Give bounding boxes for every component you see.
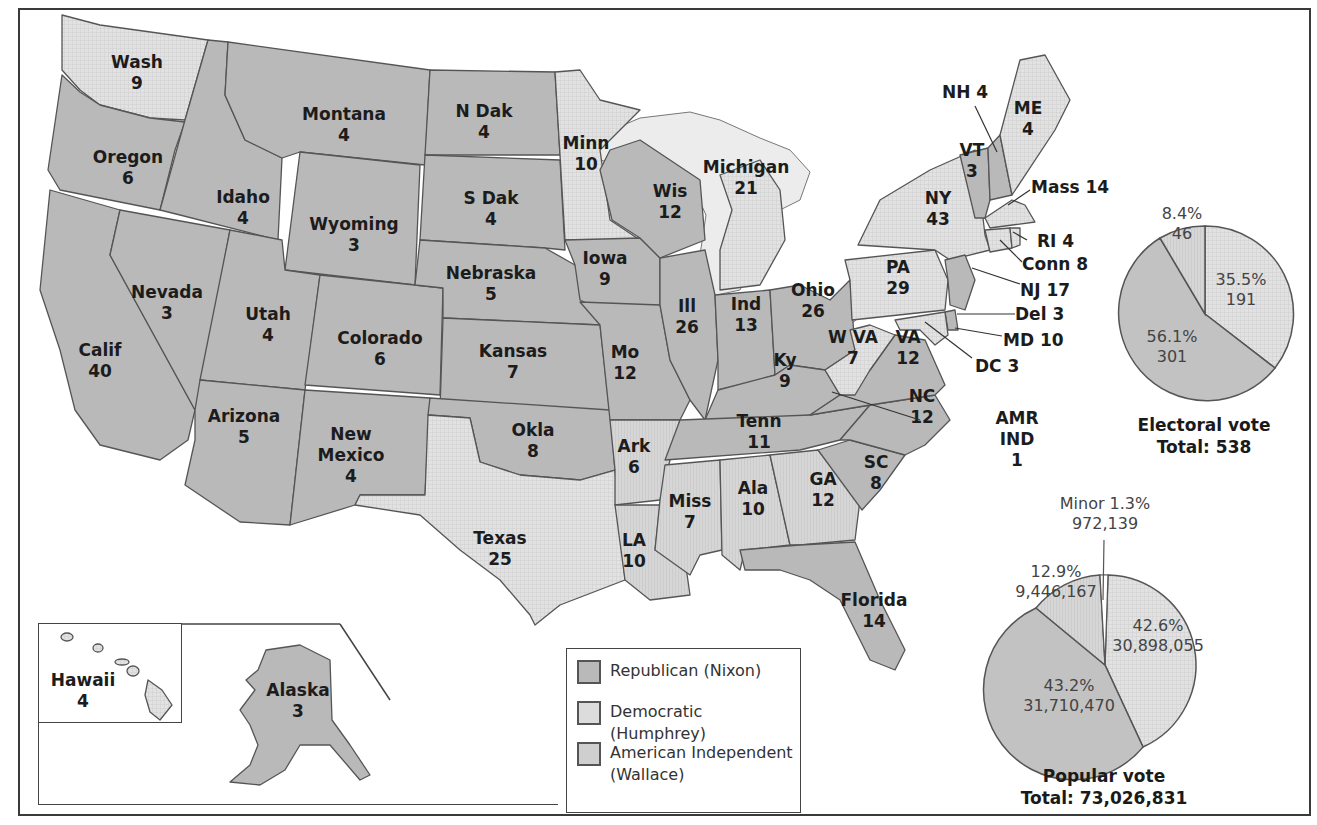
- popular-rep-label: 43.2%31,710,470: [1023, 676, 1115, 716]
- electoral-vote-pie: [1119, 226, 1294, 401]
- popular-vote-title: Popular voteTotal: 73,026,831: [1021, 765, 1188, 809]
- electoral-rep-label: 56.1%301: [1147, 327, 1198, 367]
- electoral-vote-title: Electoral voteTotal: 538: [1138, 414, 1271, 458]
- electoral-dem-label: 35.5%191: [1216, 270, 1267, 310]
- pie-charts: [0, 0, 1317, 825]
- popular-minor-label: Minor 1.3%972,139: [1060, 494, 1151, 534]
- electoral-aip-label: 8.4%46: [1162, 204, 1203, 244]
- popular-aip-label: 12.9%9,446,167: [1015, 562, 1096, 602]
- popular-dem-label: 42.6%30,898,055: [1112, 616, 1204, 656]
